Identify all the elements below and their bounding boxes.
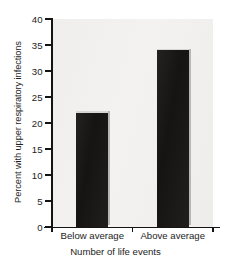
bar-top-highlight xyxy=(76,111,110,113)
x-axis-category-label: Above average xyxy=(125,230,221,241)
y-axis-title: Percent with upper respiratory infection… xyxy=(13,12,23,232)
y-axis-tick: 15 xyxy=(45,148,52,149)
y-axis-tick-label: 40 xyxy=(32,15,43,25)
y-axis-tick-label: 0 xyxy=(37,223,42,233)
bar xyxy=(157,50,189,227)
y-axis-tick: 20 xyxy=(45,122,52,123)
bar-side-highlight xyxy=(189,49,191,226)
x-axis-title: Number of life events xyxy=(0,246,231,257)
bar-top-highlight xyxy=(157,49,191,51)
y-axis-tick-label: 15 xyxy=(32,145,43,155)
y-axis-tick-label: 5 xyxy=(37,197,42,207)
y-axis-tick: 25 xyxy=(45,96,52,97)
y-axis-tick-label: 35 xyxy=(32,41,43,51)
y-axis-tick: 40 xyxy=(45,18,52,19)
y-axis-tick: 35 xyxy=(45,44,52,45)
y-axis-tick-label: 25 xyxy=(32,93,43,103)
y-axis-tick: 30 xyxy=(45,70,52,71)
y-axis-tick: 5 xyxy=(45,200,52,201)
y-axis-tick-label: 30 xyxy=(32,67,43,77)
y-axis-tick-label: 10 xyxy=(32,171,43,181)
bar-chart-figure: Percent with upper respiratory infection… xyxy=(0,0,231,266)
y-axis-tick: 10 xyxy=(45,174,52,175)
y-axis-tick-label: 20 xyxy=(32,119,43,129)
bar-side-highlight xyxy=(108,111,110,225)
bar xyxy=(76,113,108,227)
